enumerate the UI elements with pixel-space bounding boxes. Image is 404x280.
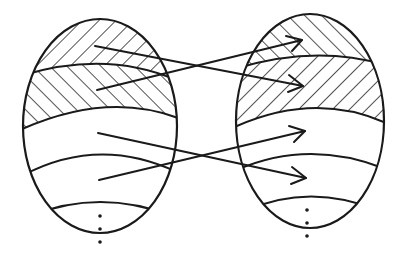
left-ellipsis-icon <box>98 214 102 244</box>
right-set <box>220 0 400 248</box>
left-set <box>10 0 200 253</box>
right-ellipsis-icon <box>305 208 309 238</box>
set-mapping-diagram <box>0 0 404 280</box>
